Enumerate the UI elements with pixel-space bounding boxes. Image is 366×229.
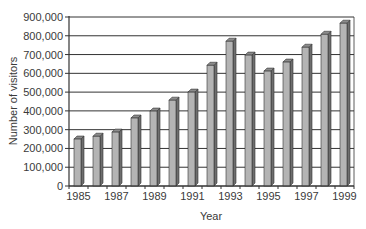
bar-1991 bbox=[188, 89, 198, 186]
x-tick-label: 1987 bbox=[104, 190, 128, 202]
x-tick-label: 1989 bbox=[142, 190, 166, 202]
x-tick-label: 1997 bbox=[294, 190, 318, 202]
x-axis-ticks: 19851987198919911993199519971999 bbox=[66, 186, 356, 202]
bar-chart: 0100,000200,000300,000400,000500,000600,… bbox=[0, 0, 366, 229]
bar-1993 bbox=[226, 38, 236, 186]
x-tick-label: 1985 bbox=[66, 190, 90, 202]
bar-1985 bbox=[74, 136, 84, 186]
x-tick-label: 1995 bbox=[256, 190, 280, 202]
bar-1997 bbox=[302, 44, 312, 186]
y-tick-label: 400,000 bbox=[23, 105, 63, 117]
y-tick-label: 800,000 bbox=[23, 30, 63, 42]
bar-1995 bbox=[264, 68, 274, 186]
y-axis-title: Number of visitors bbox=[7, 56, 19, 145]
bar-1989 bbox=[150, 108, 160, 186]
y-tick-label: 0 bbox=[57, 180, 63, 192]
y-tick-label: 300,000 bbox=[23, 124, 63, 136]
bar-1994 bbox=[245, 52, 255, 186]
bar-1992 bbox=[207, 62, 217, 186]
bar-1986 bbox=[93, 133, 103, 186]
bar-1998 bbox=[321, 31, 331, 186]
y-tick-label: 600,000 bbox=[23, 67, 63, 79]
x-tick-label: 1991 bbox=[180, 190, 204, 202]
bars bbox=[74, 20, 350, 186]
bar-1999 bbox=[340, 20, 350, 186]
x-axis-title: Year bbox=[200, 210, 223, 222]
y-tick-label: 100,000 bbox=[23, 161, 63, 173]
bar-1990 bbox=[169, 97, 179, 186]
y-tick-label: 500,000 bbox=[23, 86, 63, 98]
bar-1987 bbox=[112, 129, 122, 186]
x-tick-label: 1993 bbox=[218, 190, 242, 202]
x-tick-label: 1999 bbox=[332, 190, 356, 202]
y-tick-label: 200,000 bbox=[23, 142, 63, 154]
bar-1988 bbox=[131, 115, 141, 186]
y-tick-label: 900,000 bbox=[23, 11, 63, 23]
y-tick-label: 700,000 bbox=[23, 49, 63, 61]
bar-1996 bbox=[283, 59, 293, 186]
y-axis-ticks: 0100,000200,000300,000400,000500,000600,… bbox=[23, 11, 69, 192]
